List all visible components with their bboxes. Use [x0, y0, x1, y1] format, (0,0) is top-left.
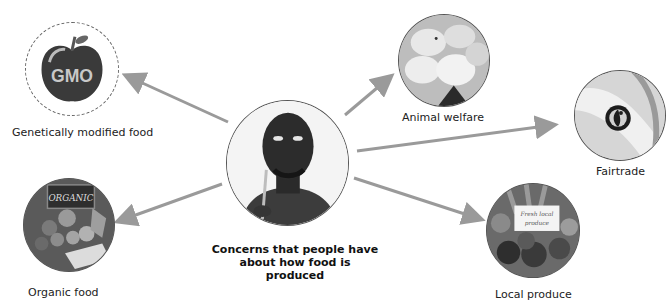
local-produce-label: Local produce — [495, 288, 572, 301]
arrow-to-organic — [119, 184, 222, 221]
local-produce-photo: Fresh local produce — [487, 184, 579, 277]
chicks-photo — [399, 15, 489, 106]
arrow-to-local — [354, 178, 480, 219]
thinking-man-photo — [227, 101, 348, 225]
center-caption: Concerns that people have about how food… — [210, 243, 380, 282]
arrow-to-fairtrade — [357, 125, 553, 151]
organic-vegetables-photo: ORGANIC — [24, 179, 114, 271]
center-node — [226, 100, 349, 226]
caption-line-2: about how food is produced — [210, 256, 380, 282]
svg-text:Fresh local: Fresh local — [519, 211, 553, 217]
fairtrade-node — [574, 70, 666, 161]
arrow-to-gmo — [127, 76, 228, 122]
gmo-label: Genetically modified food — [12, 126, 153, 139]
organic-node: ORGANIC — [23, 178, 115, 272]
caption-line-1: Concerns that people have — [210, 243, 380, 256]
gmo-node: GMO — [25, 22, 119, 116]
svg-text:ORGANIC: ORGANIC — [48, 193, 93, 203]
svg-text:GMO: GMO — [51, 66, 93, 86]
fairtrade-label: Fairtrade — [596, 165, 645, 178]
animal-welfare-node — [398, 14, 490, 107]
arrow-to-animal — [345, 77, 390, 115]
svg-text:produce: produce — [525, 220, 550, 227]
gmo-apple-icon: GMO — [26, 23, 118, 115]
organic-label: Organic food — [28, 286, 99, 299]
fairtrade-logo-banana-photo — [575, 71, 665, 160]
local-produce-node: Fresh local produce — [486, 183, 580, 278]
animal-welfare-label: Animal welfare — [402, 111, 484, 124]
